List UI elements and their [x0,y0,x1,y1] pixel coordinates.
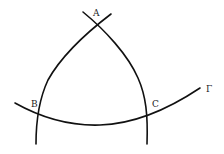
label-gamma: Γ [206,84,212,94]
diagram-canvas: A B C Γ [0,0,224,154]
label-b: B [31,99,38,109]
label-c: C [152,99,159,109]
label-a: A [92,8,100,18]
